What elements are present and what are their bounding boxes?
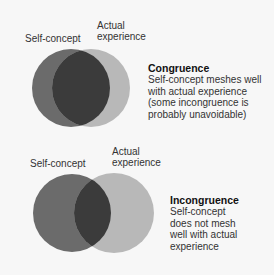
- caption-line: with actual experience: [148, 86, 261, 98]
- actual-label-line2: experience: [112, 157, 161, 168]
- actual-label-line1: Actual: [97, 20, 146, 31]
- caption-line: well with actual: [170, 229, 239, 241]
- self-concept-label: Self-concept: [25, 33, 81, 44]
- congruence-caption: Congruence Self-concept meshes well with…: [148, 62, 261, 120]
- caption-line: Self-concept meshes well: [148, 74, 261, 86]
- caption-line: experience: [170, 241, 239, 253]
- incongruence-caption: Incongruence Self-concept does not mesh …: [170, 194, 239, 252]
- self-concept-label: Self-concept: [30, 158, 86, 169]
- caption-title: Incongruence: [170, 194, 239, 206]
- caption-title: Congruence: [148, 62, 261, 74]
- actual-label-line2: experience: [97, 31, 146, 42]
- actual-label-line1: Actual: [112, 146, 161, 157]
- incongruence-venn: [33, 173, 154, 253]
- caption-line: probably unavoidable): [148, 109, 261, 121]
- caption-line: Self-concept: [170, 206, 239, 218]
- actual-experience-label: Actual experience: [97, 20, 146, 42]
- caption-line: does not mesh: [170, 218, 239, 230]
- actual-experience-label: Actual experience: [112, 146, 161, 168]
- congruence-venn: [32, 49, 130, 127]
- caption-line: (some incongruence is: [148, 97, 261, 109]
